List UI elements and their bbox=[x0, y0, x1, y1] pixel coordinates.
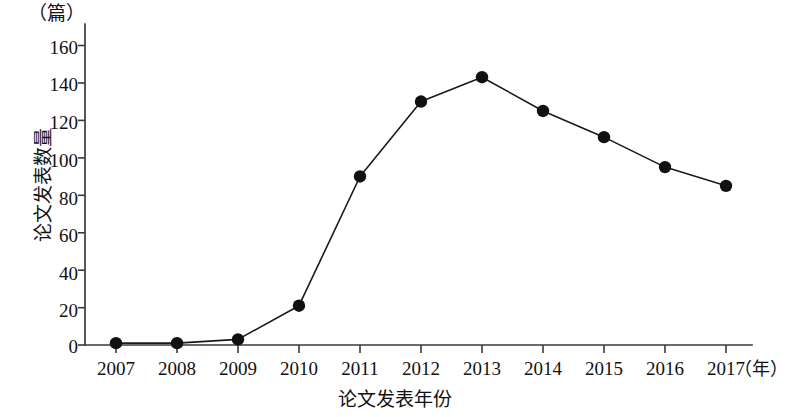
plot-area bbox=[0, 0, 790, 417]
data-point-marker bbox=[354, 170, 366, 182]
data-series-line bbox=[116, 77, 726, 343]
data-point-marker bbox=[659, 161, 671, 173]
data-point-marker bbox=[110, 337, 122, 349]
data-point-marker bbox=[415, 95, 427, 107]
data-point-marker bbox=[720, 180, 732, 192]
data-point-marker bbox=[598, 131, 610, 143]
data-point-marker bbox=[293, 299, 305, 311]
data-point-marker bbox=[476, 71, 488, 83]
data-point-markers bbox=[110, 71, 732, 349]
line-chart: （篇） 论文发表数量 论文发表年份 （年） 160 140 120 100 80… bbox=[0, 0, 790, 417]
y-axis-ticks bbox=[78, 46, 85, 346]
x-axis-ticks bbox=[116, 345, 726, 353]
data-point-marker bbox=[537, 105, 549, 117]
data-point-marker bbox=[171, 337, 183, 349]
data-point-marker bbox=[232, 333, 244, 345]
